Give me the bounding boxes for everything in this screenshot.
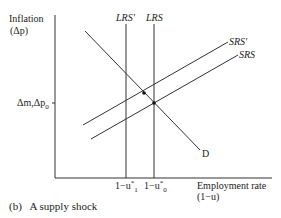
y-tick-label: Δm,Δp0 <box>17 97 49 108</box>
y-axis-title: Inflation <box>9 13 43 24</box>
x-axis-title: Employment rate <box>197 180 266 191</box>
figure-caption: (b) A supply shock <box>9 201 97 212</box>
equilibrium-initial-dot <box>152 101 156 105</box>
srs-prime-label: SRS' <box>229 36 247 47</box>
x-tick-label-0: 1−u*0 <box>144 180 167 191</box>
demand-label: D <box>202 148 209 159</box>
srs-prime-line <box>83 42 228 125</box>
lrs-prime-label: LRS' <box>116 12 135 23</box>
x-tick-label-1: 1−u*1 <box>115 180 138 191</box>
equilibrium-new-dot <box>142 91 146 95</box>
srs-label: SRS <box>239 49 255 60</box>
srs-line <box>91 55 238 139</box>
lrs-label: LRS <box>146 12 163 23</box>
x-axis-subtitle: (1−u) <box>197 191 219 202</box>
y-axis-subtitle: (Δp) <box>10 25 28 36</box>
